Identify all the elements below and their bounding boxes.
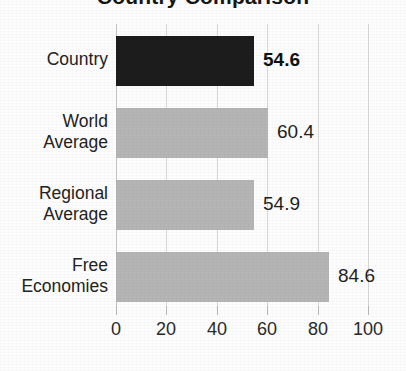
- category-label-line: Regional: [0, 183, 108, 205]
- category-label-line: Country: [0, 49, 108, 71]
- x-axis-tick-label: 60: [257, 319, 277, 340]
- category-label-line: Economies: [0, 276, 108, 298]
- tick-mark-20: [166, 306, 167, 315]
- category-label-line: Average: [0, 204, 108, 226]
- category-label-line: Free: [0, 255, 108, 277]
- x-axis-tick-label: 80: [308, 319, 328, 340]
- chart-title: Country Comparison: [0, 0, 406, 9]
- category-label: RegionalAverage: [0, 183, 108, 226]
- category-label: WorldAverage: [0, 111, 108, 154]
- x-axis-tick-label: 100: [353, 319, 383, 340]
- x-axis-tick-label: 20: [156, 319, 176, 340]
- gridline-100: [368, 24, 369, 306]
- tick-mark-0: [116, 306, 117, 315]
- tick-mark-60: [267, 306, 268, 315]
- category-label: Country: [0, 49, 108, 71]
- bar-value-label: 54.9: [263, 193, 300, 215]
- bar-value-label: 84.6: [338, 265, 375, 287]
- category-label: FreeEconomies: [0, 255, 108, 298]
- bar-value-label: 54.6: [263, 49, 300, 71]
- bar-2: [116, 180, 254, 230]
- bar-0: [116, 36, 254, 86]
- x-axis-tick-label: 0: [111, 319, 121, 340]
- bar-3: [116, 252, 329, 302]
- category-label-line: World: [0, 111, 108, 133]
- x-axis-tick-label: 40: [207, 319, 227, 340]
- category-label-line: Average: [0, 132, 108, 154]
- bar-1: [116, 108, 268, 158]
- tick-mark-40: [217, 306, 218, 315]
- tick-mark-100: [368, 306, 369, 315]
- chart-title-clipped: Country Comparison: [0, 0, 406, 11]
- bar-chart: Country Comparison 02040608010054.6Count…: [0, 0, 406, 371]
- tick-mark-80: [318, 306, 319, 315]
- plot-area: [116, 24, 368, 306]
- bar-value-label: 60.4: [277, 121, 314, 143]
